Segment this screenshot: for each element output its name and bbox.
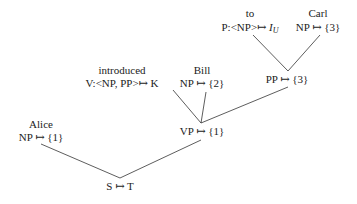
node-bill: Bill NP ↦ {2}	[180, 64, 224, 89]
tree-edges	[41, 35, 320, 178]
label-bill: NP ↦ {2}	[180, 77, 224, 89]
edge-alice-s	[41, 144, 120, 178]
node-pp: PP ↦ {3}	[266, 73, 309, 85]
label-introduced: V:<NP, PP>↦ K	[85, 77, 158, 89]
node-vp: VP ↦ {1}	[180, 125, 224, 137]
word-introduced: introduced	[98, 64, 146, 76]
edge-bill-vp	[201, 92, 206, 123]
edge-carl-pp	[288, 35, 320, 71]
word-bill: Bill	[194, 64, 211, 76]
node-carl: Carl NP ↦ {3}	[296, 7, 340, 33]
word-alice: Alice	[29, 118, 53, 130]
label-alice: NP ↦ {1}	[19, 131, 63, 143]
edge-to-pp	[253, 35, 288, 71]
node-alice: Alice NP ↦ {1}	[19, 118, 63, 143]
label-carl: NP ↦ {3}	[296, 21, 340, 33]
word-to: to	[246, 7, 255, 19]
label-to: P:<NP>↦ IU	[221, 21, 279, 35]
node-introduced: introduced V:<NP, PP>↦ K	[85, 64, 158, 89]
edge-pp-vp	[201, 87, 288, 123]
node-s: S ↦ T	[106, 180, 134, 192]
edge-introduced-vp	[173, 90, 201, 123]
word-carl: Carl	[309, 7, 328, 19]
parse-tree-diagram: to P:<NP>↦ IU Carl NP ↦ {3} PP ↦ {3} int…	[0, 0, 357, 204]
edge-vp-s	[120, 140, 201, 178]
node-to: to P:<NP>↦ IU	[221, 7, 279, 35]
